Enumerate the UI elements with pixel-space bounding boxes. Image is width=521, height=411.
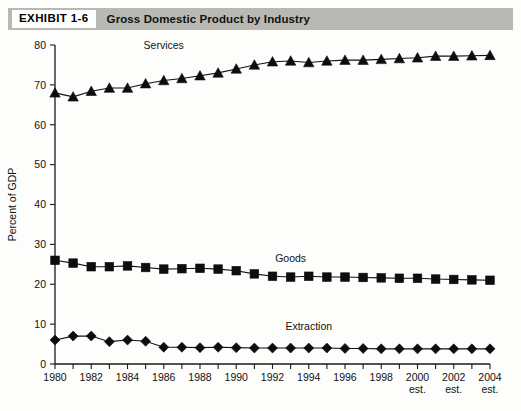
data-point-marker [159,342,169,352]
line-chart: 01020304050607080Percent of GDP198019821… [0,34,521,411]
exhibit-header-bar: EXHIBIT 1-6 Gross Domestic Product by In… [8,8,513,30]
data-point-marker [51,256,60,265]
data-point-marker [323,273,332,282]
data-point-marker [431,344,441,354]
y-axis-tick-label: 0 [40,358,46,370]
data-point-marker [485,344,495,354]
series-services: Services [50,39,495,101]
chart-plot-area: 01020304050607080Percent of GDP198019821… [0,34,521,411]
data-point-marker [249,343,259,353]
data-point-marker [449,275,458,284]
data-point-marker [431,275,440,284]
data-point-marker [196,264,205,273]
data-point-marker [250,270,259,279]
data-point-marker [341,273,350,282]
data-point-marker [285,56,295,65]
data-point-marker [340,343,350,353]
data-point-marker [394,344,404,354]
data-point-marker [449,344,459,354]
y-axis-tick-label: 70 [34,79,46,91]
data-point-marker [141,336,151,346]
y-axis-tick-label: 50 [34,158,46,170]
y-axis-tick-label: 80 [34,39,46,51]
data-point-marker [177,342,187,352]
series-label-goods: Goods [275,252,306,264]
series-extraction: Extraction [50,320,495,354]
data-point-marker [358,343,368,353]
data-point-marker [50,88,60,97]
x-axis-tick-sublabel: est. [409,383,426,395]
data-point-marker [50,335,60,345]
data-point-marker [141,263,150,272]
data-point-marker [485,50,495,59]
data-point-marker [69,259,78,268]
data-point-marker [377,274,386,283]
data-point-marker [468,276,477,285]
data-point-marker [413,274,422,283]
x-axis-tick-label: 1996 [333,371,357,383]
data-point-marker [286,343,296,353]
data-point-marker [68,331,78,341]
data-point-marker [123,262,132,271]
data-point-marker [86,331,96,341]
data-point-marker [322,343,332,353]
x-axis-tick-label: 1984 [116,371,140,383]
x-axis-tick-label: 1994 [297,371,321,383]
x-axis-tick-label: 1982 [80,371,104,383]
data-point-marker [87,262,96,271]
data-point-marker [159,265,168,274]
data-point-marker [359,273,368,282]
y-axis-tick-label: 60 [34,119,46,131]
x-axis-tick-label: 2000 [406,371,430,383]
x-axis-tick-label: 1998 [370,371,394,383]
data-point-marker [123,335,133,345]
y-axis-tick-label: 40 [34,198,46,210]
y-axis-tick-label: 20 [34,278,46,290]
series-goods: Goods [51,252,495,284]
x-axis-tick-label: 1990 [225,371,249,383]
x-axis-tick-label: 1992 [261,371,285,383]
x-axis-tick-label: 2002 [442,371,466,383]
y-axis-tick-label: 10 [34,318,46,330]
exhibit-figure: EXHIBIT 1-6 Gross Domestic Product by In… [0,0,521,411]
data-point-marker [395,274,404,283]
data-point-marker [376,344,386,354]
data-point-marker [213,342,223,352]
data-point-marker [214,265,223,274]
data-point-marker [304,272,313,281]
data-point-marker [195,343,205,353]
data-point-marker [268,343,278,353]
data-point-marker [467,344,477,354]
x-axis-tick-sublabel: est. [445,383,462,395]
data-point-marker [304,343,314,353]
data-point-marker [104,337,114,347]
exhibit-number: EXHIBIT 1-6 [12,10,96,28]
x-axis-tick-label: 1988 [188,371,212,383]
data-point-marker [486,276,495,285]
data-point-marker [413,344,423,354]
data-point-marker [231,343,241,353]
data-point-marker [105,262,114,271]
data-point-marker [268,272,277,281]
x-axis-tick-label: 2004 [478,371,502,383]
y-axis-title: Percent of GDP [6,168,18,242]
series-label-extraction: Extraction [285,320,332,332]
series-label-services: Services [144,39,184,51]
y-axis-tick-label: 30 [34,238,46,250]
x-axis-tick-label: 1986 [152,371,176,383]
data-point-marker [178,264,187,273]
x-axis-tick-sublabel: est. [482,383,499,395]
exhibit-title: Gross Domestic Product by Industry [107,13,310,25]
data-point-marker [286,273,295,282]
data-point-marker [232,266,241,275]
x-axis-tick-label: 1980 [43,371,67,383]
